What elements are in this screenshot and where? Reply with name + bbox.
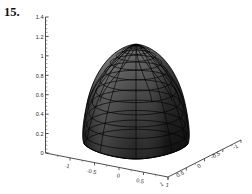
z-axis-ticks: 0 0.2 0.4 0.6 0.8 1 1.2 1.4: [36, 14, 49, 156]
x-tick-label-0_5: 0.5: [136, 177, 145, 184]
x-tick-label-1: 1: [165, 182, 169, 188]
z-tick-label-0_4: 0.4: [36, 111, 44, 117]
z-tick-label-0_6: 0.6: [36, 92, 44, 98]
y-tick-label-0_5: 0.5: [175, 170, 185, 179]
y-tick-label-1: 1: [159, 181, 165, 188]
z-tick-label-0_2: 0.2: [36, 131, 44, 137]
z-tick-label-1: 1: [40, 53, 43, 59]
x-tick-label-neg0_5: -0.5: [86, 167, 97, 175]
z-tick-label-0_8: 0.8: [36, 73, 44, 79]
x-axis-ticks: -1 -0.5 0 0.5 1: [58, 155, 170, 188]
surface-plot-3d: 0 0.2 0.4 0.6 0.8 1 1.2 1.4: [0, 0, 252, 194]
x-tick-label-neg1: -1: [64, 163, 70, 170]
figure-panel: 15.: [0, 0, 252, 194]
y-tick-label-neg0_5: -0.5: [210, 150, 221, 160]
z-tick-label-1_2: 1.2: [36, 34, 44, 40]
z-tick-label-1_4: 1.4: [36, 14, 44, 20]
z-tick-label-0: 0: [40, 150, 43, 156]
x-tick-label-0: 0: [116, 172, 120, 178]
y-tick-label-0: 0: [196, 162, 202, 169]
surface-mesh: [83, 44, 190, 159]
y-tick-label-neg1: -1: [232, 143, 239, 151]
